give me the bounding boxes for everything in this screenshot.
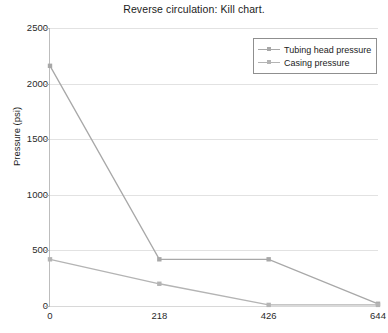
data-point-marker xyxy=(376,303,380,307)
x-axis-line xyxy=(49,306,378,307)
chart-title: Reverse circulation: Kill chart. xyxy=(0,3,388,15)
legend-item[interactable]: Tubing head pressure xyxy=(258,43,371,56)
legend-label: Casing pressure xyxy=(284,58,350,68)
data-point-marker xyxy=(157,257,161,261)
legend-swatch-icon xyxy=(258,58,280,68)
y-axis-tick-label: 1500 xyxy=(8,133,48,144)
y-axis-tick-label: 2000 xyxy=(8,78,48,89)
x-axis-tick-label: 426 xyxy=(247,310,291,321)
x-axis-tick-label: 644 xyxy=(356,310,388,321)
x-axis-tick-label: 0 xyxy=(28,310,72,321)
legend-swatch-icon xyxy=(258,45,280,55)
x-axis-tick-label: 218 xyxy=(137,310,181,321)
legend-label: Tubing head pressure xyxy=(284,45,371,55)
y-axis-tick-label: 500 xyxy=(8,244,48,255)
kill-chart-figure: Reverse circulation: Kill chart. Pressur… xyxy=(0,0,388,333)
series-line xyxy=(50,259,378,305)
y-axis-tick-label: 2500 xyxy=(8,22,48,33)
data-point-marker xyxy=(48,257,52,261)
legend: Tubing head pressureCasing pressure xyxy=(253,38,377,74)
legend-marker xyxy=(267,47,271,51)
y-axis-tick-mark xyxy=(45,306,50,307)
legend-item[interactable]: Casing pressure xyxy=(258,56,371,69)
data-point-marker xyxy=(266,303,270,307)
data-point-marker xyxy=(266,257,270,261)
data-point-marker xyxy=(48,64,52,68)
y-axis-tick-label: 1000 xyxy=(8,189,48,200)
data-point-marker xyxy=(157,282,161,286)
legend-marker xyxy=(267,60,271,64)
series-line xyxy=(50,66,378,304)
